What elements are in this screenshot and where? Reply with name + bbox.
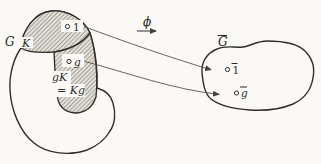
phi-label: ϕ [143, 15, 151, 29]
point-g-bar-marker [234, 91, 238, 95]
point-identity-bar-marker [225, 67, 229, 71]
K-label: K [21, 37, 31, 50]
point-identity-marker [65, 24, 69, 28]
coset-mapping-figure: ϕ G K 1 g gK = Kg G 1 g [0, 0, 321, 164]
point-identity-bar-label: 1 [233, 64, 240, 76]
point-g-bar-label: g [241, 87, 248, 99]
coset-label-line1: gK [52, 71, 68, 84]
right-set-outline [202, 41, 314, 110]
point-g-label: g [74, 56, 81, 68]
point-g-marker [67, 59, 71, 63]
point-identity-label: 1 [73, 21, 80, 33]
coset-label-line2: = Kg [57, 84, 85, 97]
map-curve-identity [84, 27, 211, 70]
diagram-canvas: ϕ G K 1 g gK = Kg G 1 g [0, 0, 321, 164]
G-label: G [5, 35, 15, 49]
G-bar-label: G [218, 35, 228, 49]
knockout-point-1 [61, 20, 83, 32]
